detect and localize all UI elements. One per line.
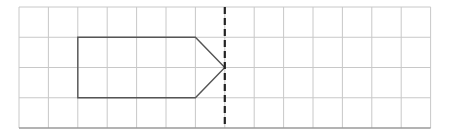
grid-diagram (0, 0, 449, 132)
